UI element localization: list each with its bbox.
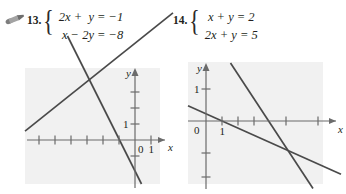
equation-system-14: { x + y = 2 2x + y = 5 — [189, 8, 257, 44]
problem-number-13: 13. — [27, 15, 41, 27]
equation-14-1: x + y = 2 — [205, 8, 258, 26]
line-2x-plus-y-equals-5 — [231, 63, 314, 189]
x-unit-label-14: 1 — [220, 125, 226, 137]
y-axis-label-14: y — [196, 62, 202, 74]
y-axis-arrow-13 — [132, 68, 139, 76]
y-unit-label-13: 1 — [123, 118, 129, 130]
graph-13-x-axis — [27, 136, 165, 145]
problem-13: 13. { 2x + y = −1 x − 2y = −8 — [4, 8, 123, 44]
graph-13: y x 0 1 1 — [25, 60, 175, 190]
x-axis-label-14: x — [337, 123, 343, 135]
graph-13-y-axis — [131, 68, 140, 188]
x-axis-arrow-13 — [158, 137, 165, 143]
origin-label-14: 0 — [194, 124, 200, 136]
equation-system-13: { 2x + y = −1 x − 2y = −8 — [43, 8, 123, 44]
equation-13-2: x − 2y = −8 — [59, 26, 124, 44]
line-2x-plus-y-equals-neg1 — [68, 36, 142, 184]
problem-14: 14. { x + y = 2 2x + y = 5 — [173, 8, 258, 44]
graph-14-lines — [188, 63, 341, 189]
y-unit-label-14: 1 — [194, 83, 200, 95]
equation-13-1: 2x + y = −1 — [59, 8, 124, 26]
graph-14-y-axis — [202, 63, 211, 189]
equation-14-2: 2x + y = 5 — [205, 26, 258, 44]
pencil-icon — [4, 12, 26, 26]
y-axis-label-13: y — [125, 67, 131, 79]
left-brace-13: { — [43, 6, 54, 44]
worksheet-page: 13. { 2x + y = −1 x − 2y = −8 14. { x + … — [0, 0, 346, 194]
problem-number-14: 14. — [173, 15, 187, 27]
graph-14-x-axis — [188, 117, 336, 126]
x-axis-label-13: x — [167, 141, 173, 153]
left-brace-14: { — [189, 6, 200, 44]
graph-14: y x 0 1 1 — [186, 55, 346, 191]
x-axis-arrow-14 — [329, 118, 336, 124]
y-axis-arrow-14 — [203, 63, 210, 71]
x-unit-label-13: 1 — [149, 143, 155, 155]
origin-label-13: 0 — [138, 143, 144, 155]
